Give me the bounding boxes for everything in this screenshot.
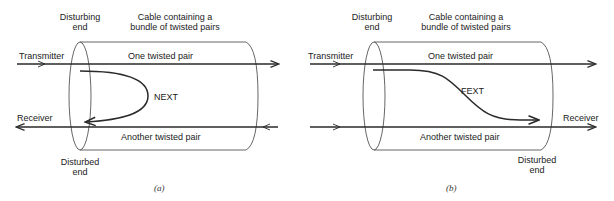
crosstalk-figure: Disturbing end Cable containing a bundle… [0, 0, 614, 201]
disturbed-end-label-b: Disturbed end [513, 155, 561, 175]
disturbing-end-label-b: Disturbing end [348, 12, 396, 32]
disturbing-end-label-a: Disturbing end [56, 12, 104, 32]
another-twisted-pair-label-b: Another twisted pair [420, 132, 500, 142]
transmitter-label-b: Transmitter [308, 51, 353, 61]
fext-label: FEXT [461, 86, 484, 96]
another-twisted-pair-label-a: Another twisted pair [121, 132, 201, 142]
one-twisted-pair-label-a: One twisted pair [128, 51, 193, 61]
receiver-label-b: Receiver [563, 113, 599, 123]
receiver-label-a: Receiver [17, 113, 53, 123]
caption-b: (b) [446, 183, 457, 193]
caption-a: (a) [154, 183, 165, 193]
disturbed-end-label-a: Disturbed end [56, 157, 104, 177]
next-label: NEXT [154, 92, 178, 102]
cable-label-a: Cable containing a bundle of twisted pai… [120, 12, 230, 32]
cable-label-b: Cable containing a bundle of twisted pai… [411, 12, 521, 32]
transmitter-label-a: Transmitter [19, 51, 64, 61]
fext-coupling-arrow [373, 70, 538, 120]
one-twisted-pair-label-b: One twisted pair [428, 51, 493, 61]
